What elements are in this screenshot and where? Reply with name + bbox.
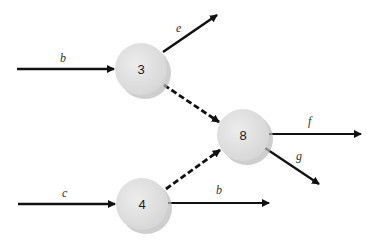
edge-label-e: e	[176, 21, 182, 35]
edge-label-b-upper: b	[60, 51, 66, 65]
edge-g-out-of-8: g	[265, 148, 319, 184]
edge-dashed-4-to-8	[166, 150, 220, 189]
node-label-8: 8	[239, 128, 246, 143]
edge-label-f: f	[308, 114, 313, 128]
node-8: 8	[217, 109, 273, 165]
edge-b-out-of-4: b	[168, 183, 269, 203]
flow-diagram: b e c b f g 3 8 4	[0, 0, 380, 241]
edge-label-b-lower: b	[216, 183, 222, 197]
edge-label-c: c	[62, 186, 68, 200]
node-4: 4	[116, 178, 172, 234]
node-label-4: 4	[138, 197, 145, 212]
edge-e-out-of-3: e	[163, 15, 217, 52]
node-label-3: 3	[137, 62, 144, 77]
edge-c-into-4: c	[18, 186, 115, 204]
edge-b-into-3: b	[17, 51, 114, 69]
edge-dashed-3-to-8	[164, 85, 219, 122]
edge-f-out-of-8: f	[269, 114, 361, 134]
edge-label-g: g	[296, 149, 302, 163]
